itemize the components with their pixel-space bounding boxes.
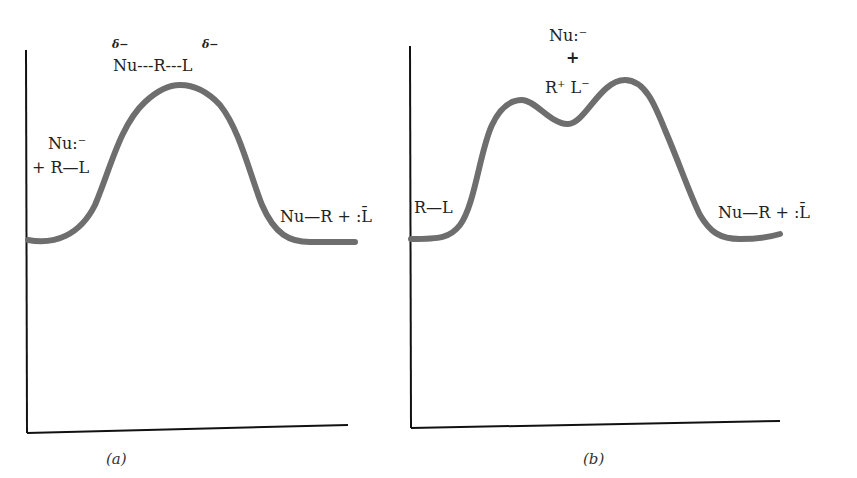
reactants-a-line1: Nu:⁻ <box>48 135 86 153</box>
cation-r: R <box>545 78 557 97</box>
intermediate-ions: R+ L− <box>545 75 590 97</box>
reactants-b-label: R—L <box>414 199 453 217</box>
delta-minus-left: δ− <box>112 36 129 54</box>
products-a-label: Nu—R + :L̄ <box>280 208 372 226</box>
cation-charge: + <box>557 78 565 89</box>
anion-l: L <box>571 78 582 97</box>
anion-charge: − <box>581 78 589 89</box>
caption-a: (a) <box>106 450 127 468</box>
products-b-label: Nu—R + :L̄ <box>718 204 810 222</box>
caption-b: (b) <box>583 450 604 468</box>
transition-state-label: Nu---R---L <box>113 57 192 75</box>
intermediate-plus: + <box>566 49 579 67</box>
reactants-a-line2: + R—L <box>32 159 89 177</box>
delta-minus-right: δ− <box>202 36 219 54</box>
intermediate-nu-label: Nu:⁻ <box>549 27 587 45</box>
